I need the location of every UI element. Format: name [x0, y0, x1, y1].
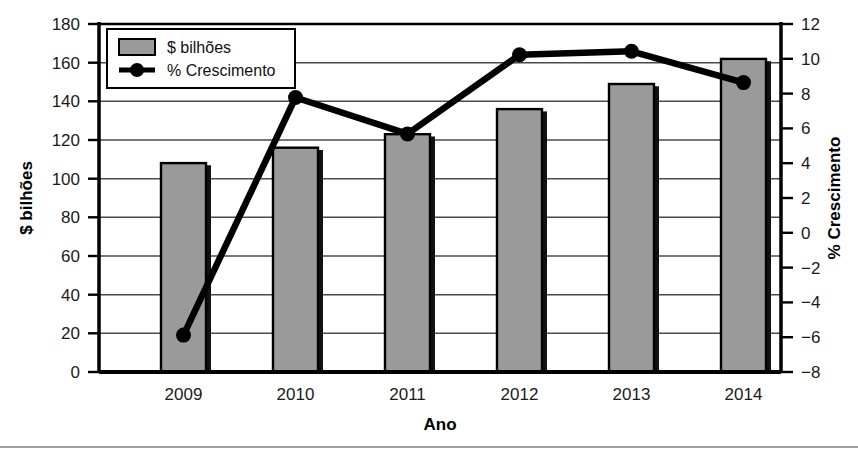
- right-tick-label: −8: [801, 363, 820, 382]
- category-label-2014: 2014: [725, 385, 763, 404]
- legend-label-line: % Crescimento: [167, 62, 276, 79]
- left-tick-label: 160: [52, 54, 80, 73]
- bar-2011: [385, 134, 435, 372]
- x-axis-title: Ano: [423, 415, 456, 434]
- legend-box: [107, 29, 295, 88]
- legend-swatch-bar: [119, 39, 155, 55]
- legend-swatch-marker-dot: [130, 63, 144, 77]
- right-tick-label: −4: [801, 293, 820, 312]
- category-label-2010: 2010: [277, 385, 315, 404]
- y-axis-right-title: % Crescimento: [825, 137, 844, 260]
- bar-2010: [273, 148, 323, 372]
- right-tick-label: 2: [801, 189, 810, 208]
- left-tick-label: 100: [52, 170, 80, 189]
- right-tick-label: 12: [801, 15, 820, 34]
- bar-2014: [721, 59, 771, 372]
- right-tick-label: 10: [801, 50, 820, 69]
- category-label-2011: 2011: [389, 385, 426, 404]
- category-label-2009: 2009: [165, 385, 203, 404]
- bar-2012: [497, 109, 547, 372]
- left-tick-label: 60: [61, 247, 80, 266]
- right-tick-label: 0: [801, 224, 810, 243]
- left-tick-label: 20: [61, 324, 80, 343]
- left-tick-label: 40: [61, 286, 80, 305]
- right-tick-label: 8: [801, 85, 810, 104]
- right-tick-label: 4: [801, 154, 810, 173]
- left-tick-label: 140: [52, 92, 80, 111]
- chart-figure: 180 160 140 120 100 80 60 40 20 0: [0, 0, 858, 451]
- legend-label-bar: $ bilhões: [167, 39, 231, 56]
- bar-2013: [609, 84, 659, 372]
- left-tick-label: 120: [52, 131, 80, 150]
- left-tick-label: 180: [52, 15, 80, 34]
- left-tick-label: 0: [71, 363, 80, 382]
- right-tick-label: 6: [801, 119, 810, 138]
- right-tick-label: −6: [801, 328, 820, 347]
- right-tick-label: −2: [801, 259, 820, 278]
- legend: $ bilhões % Crescimento: [107, 29, 295, 88]
- left-tick-label: 80: [61, 208, 80, 227]
- combo-chart: 180 160 140 120 100 80 60 40 20 0: [0, 0, 858, 451]
- category-label-2013: 2013: [613, 385, 651, 404]
- category-label-2012: 2012: [501, 385, 539, 404]
- y-axis-left-title: $ bilhões: [17, 161, 36, 235]
